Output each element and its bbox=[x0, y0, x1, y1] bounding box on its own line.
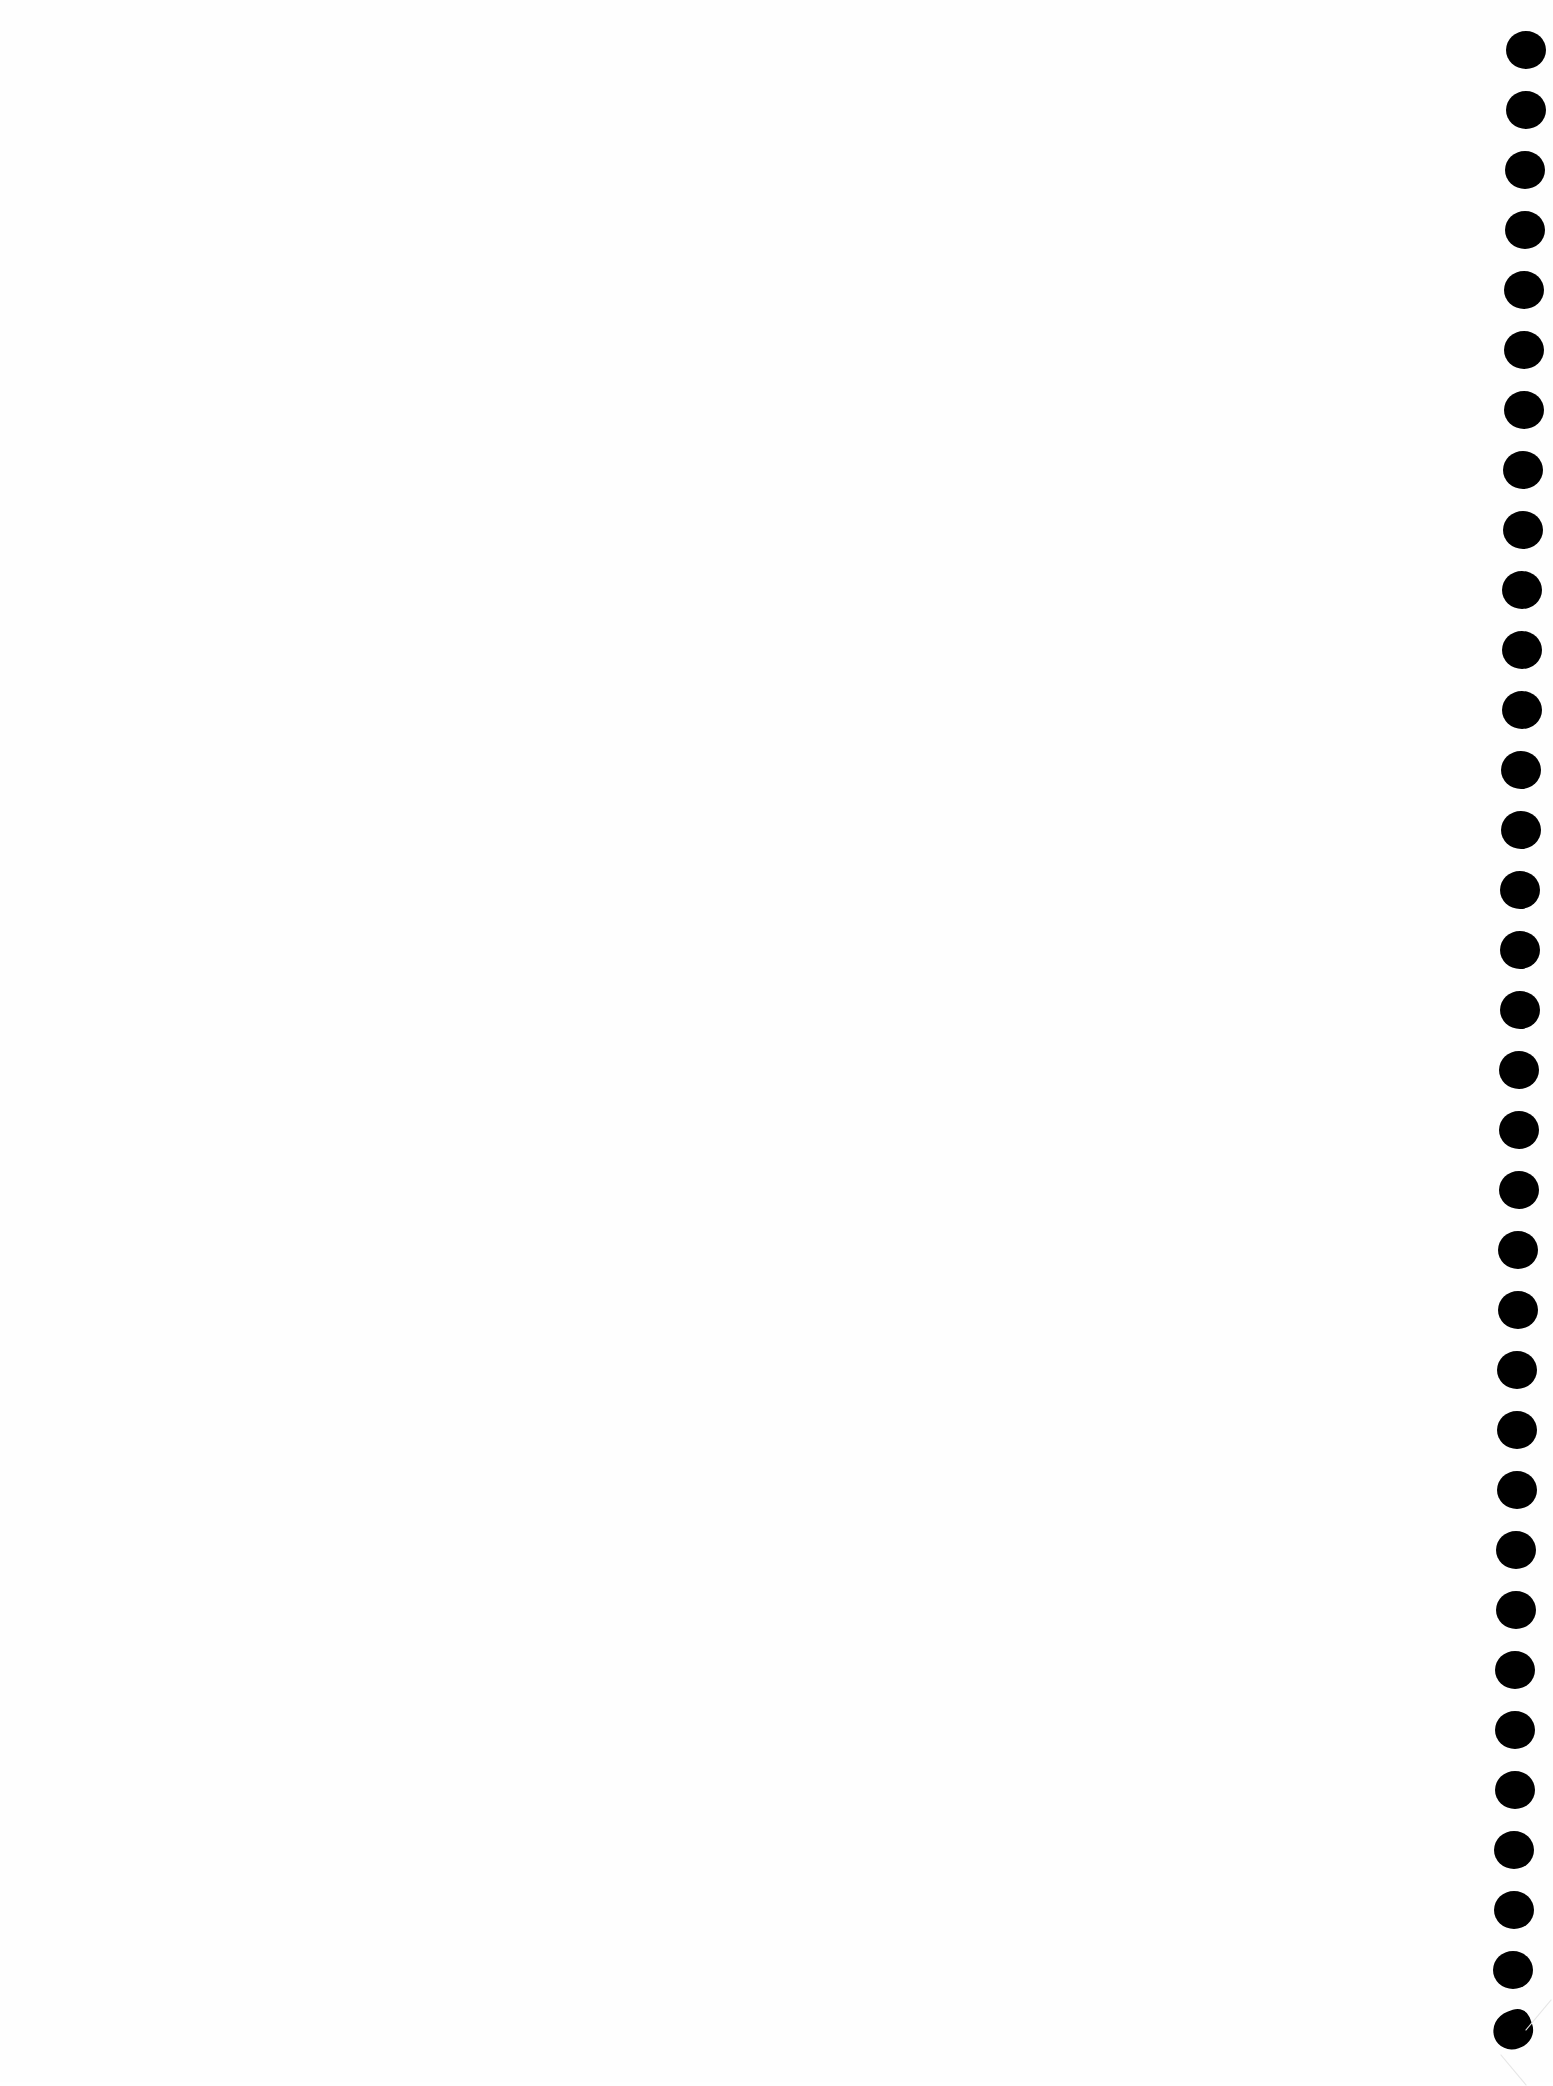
binding-hole bbox=[1499, 1111, 1539, 1149]
binding-hole bbox=[1497, 1411, 1537, 1449]
binding-hole bbox=[1488, 2005, 1539, 2054]
binding-hole bbox=[1495, 1651, 1535, 1689]
binding-hole bbox=[1505, 151, 1545, 189]
binding-hole bbox=[1497, 1351, 1537, 1389]
binding-hole bbox=[1503, 511, 1543, 549]
paper-tear-mark bbox=[1525, 1999, 1551, 2030]
binding-hole bbox=[1499, 1051, 1539, 1089]
binding-hole bbox=[1495, 1771, 1535, 1809]
binding-hole bbox=[1506, 31, 1546, 69]
binding-hole bbox=[1500, 871, 1540, 909]
binding-hole bbox=[1501, 751, 1541, 789]
binding-hole bbox=[1506, 91, 1546, 129]
binding-hole bbox=[1500, 931, 1540, 969]
binding-hole bbox=[1504, 391, 1544, 429]
binding-hole bbox=[1499, 1171, 1539, 1209]
binding-hole bbox=[1502, 631, 1542, 669]
binding-hole bbox=[1498, 1231, 1538, 1269]
binding-hole bbox=[1502, 571, 1542, 609]
binding-hole bbox=[1493, 1951, 1533, 1989]
binding-hole bbox=[1495, 1711, 1535, 1749]
binding-hole bbox=[1496, 1531, 1536, 1569]
binding-hole bbox=[1497, 1471, 1537, 1509]
binding-hole bbox=[1494, 1891, 1534, 1929]
binding-hole bbox=[1496, 1591, 1536, 1629]
binding-hole bbox=[1498, 1291, 1538, 1329]
binding-hole bbox=[1500, 991, 1540, 1029]
binding-hole bbox=[1501, 811, 1541, 849]
binding-hole bbox=[1504, 271, 1544, 309]
binding-hole bbox=[1502, 691, 1542, 729]
binding-hole bbox=[1494, 1831, 1534, 1869]
paper-tear-mark bbox=[1500, 2054, 1526, 2085]
binding-hole bbox=[1503, 451, 1543, 489]
binding-hole bbox=[1505, 211, 1545, 249]
binding-hole bbox=[1504, 331, 1544, 369]
